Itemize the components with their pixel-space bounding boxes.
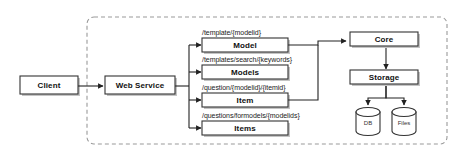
- models-box[interactable]: [202, 65, 288, 79]
- storage-box[interactable]: [350, 70, 418, 84]
- edge-item-to-core: [288, 45, 318, 100]
- files-cylinder[interactable]: [392, 108, 416, 136]
- item-box[interactable]: [202, 93, 288, 107]
- web-service-box[interactable]: [105, 76, 175, 94]
- edge-storage-to-files: [386, 86, 404, 105]
- model-box[interactable]: [202, 38, 288, 52]
- db-cylinder[interactable]: [356, 108, 380, 136]
- core-box[interactable]: [350, 32, 418, 46]
- edge-model-to-core: [288, 41, 346, 45]
- diagram-canvas: [0, 0, 470, 161]
- edge-storage-to-db: [368, 86, 386, 105]
- architecture-diagram: Client Web Service /template/{modelid} M…: [0, 0, 470, 161]
- client-box[interactable]: [20, 76, 78, 94]
- items-box[interactable]: [202, 121, 288, 135]
